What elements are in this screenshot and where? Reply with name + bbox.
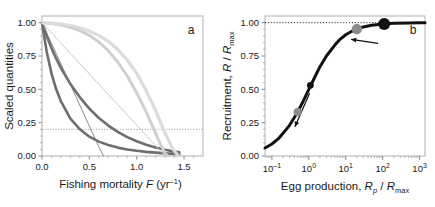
panel-a-fishing-mortality: 0.000.250.500.751.000.00.51.01.5Fishing … — [0, 0, 218, 207]
y-tick-label: 1.00 — [241, 17, 260, 28]
x-tick-label: 1.0 — [130, 161, 143, 172]
x-tick-label: 102 — [375, 162, 390, 174]
arrow-left-head — [351, 38, 356, 43]
y-tick-label: 0.25 — [241, 117, 260, 128]
x-tick-label: 101 — [339, 162, 354, 174]
marker-high-gray — [352, 24, 362, 34]
x-axis-label: Fishing mortality F (yr–1) — [59, 177, 182, 190]
y-tick-label: 0.75 — [241, 50, 260, 61]
y-axis-label: Scaled quantities — [3, 42, 15, 130]
x-tick-label: 103 — [412, 162, 427, 174]
curve-dark-gray-thin-linear — [42, 23, 104, 156]
panel-a-svg: 0.000.250.500.751.000.00.51.01.5Fishing … — [0, 0, 218, 207]
y-axis-label: Recruitment, R / Rmax — [221, 31, 236, 140]
y-tick-label: 0.00 — [18, 150, 37, 161]
panel-label-a: a — [188, 23, 195, 37]
panel-b-recruitment: 0.000.250.500.751.0010–1100101102103Egg … — [217, 0, 435, 207]
x-tick-label: 100 — [302, 162, 317, 174]
figure-container: 0.000.250.500.751.000.00.51.01.5Fishing … — [0, 0, 435, 207]
y-tick-label: 0.50 — [241, 84, 260, 95]
y-tick-label: 0.00 — [241, 150, 260, 161]
x-tick-label: 0.5 — [83, 161, 96, 172]
marker-high-black — [378, 18, 390, 30]
panel-label-b: b — [410, 23, 417, 37]
y-tick-label: 0.25 — [18, 117, 37, 128]
curve-beverton-holt-recruitment — [265, 23, 425, 148]
y-tick-label: 0.50 — [18, 84, 37, 95]
panel-b-svg: 0.000.250.500.751.0010–1100101102103Egg … — [217, 0, 435, 207]
y-tick-label: 0.75 — [18, 50, 37, 61]
x-tick-label: 0.0 — [35, 161, 48, 172]
x-tick-label: 10–1 — [263, 162, 281, 174]
x-axis-label: Egg production, Rp / Rmax — [281, 180, 410, 195]
x-tick-label: 1.5 — [177, 161, 190, 172]
marker-low-black — [307, 82, 314, 89]
marker-low-gray — [294, 108, 302, 116]
y-tick-label: 1.00 — [18, 17, 37, 28]
